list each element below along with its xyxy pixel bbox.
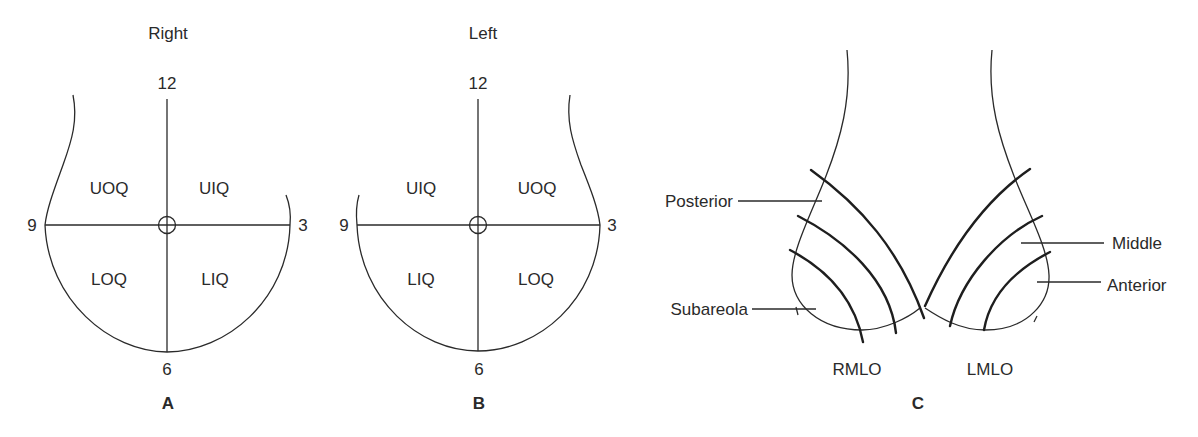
panel-c-label-middle: Middle — [1112, 234, 1162, 253]
panel-a-quadrant-uoq: UOQ — [90, 179, 129, 198]
panel-c-label-lmlo: LMLO — [967, 360, 1013, 379]
panel-c-lmlo-posterior-line — [925, 169, 1030, 306]
panel-c-label-posterior: Posterior — [665, 192, 733, 211]
panel-a-breast-outline-right — [286, 195, 290, 225]
panel-c-anterior-tick — [1034, 316, 1037, 322]
panel-a-clock-6: 6 — [162, 360, 171, 379]
panel-c-rmlo-outline — [792, 50, 920, 330]
panel-b-quadrant-liq: LIQ — [407, 270, 434, 289]
panel-c-lmlo-middle-line — [950, 216, 1042, 326]
panel-c-lmlo-anterior-line — [984, 252, 1050, 330]
panel-b-clock-6: 6 — [474, 360, 483, 379]
panel-c-letter: C — [912, 394, 924, 413]
panel-b-breast-outline-left — [356, 195, 359, 225]
panel-c-lmlo-outline — [925, 50, 1049, 330]
panel-a-quadrant-uiq: UIQ — [199, 179, 229, 198]
panel-c-label-subareola: Subareola — [670, 300, 748, 319]
panel-a-title: Right — [148, 24, 188, 43]
panel-a-letter: A — [162, 394, 174, 413]
panel-c-label-anterior: Anterior — [1107, 276, 1167, 295]
panel-c-mlo-depth: Posterior Subareola Middle Anterior RMLO… — [665, 50, 1167, 413]
panel-c-label-rmlo: RMLO — [832, 360, 881, 379]
panel-a-clock-9: 9 — [27, 216, 36, 235]
panel-a-quadrant-liq: LIQ — [201, 270, 228, 289]
panel-b-clock-3: 3 — [607, 216, 616, 235]
panel-b-clock-12: 12 — [469, 74, 488, 93]
panel-c-rmlo-posterior-line — [811, 170, 924, 318]
panel-c-rmlo-anterior-line — [790, 250, 863, 342]
panel-a-clock-3: 3 — [298, 216, 307, 235]
panel-c-subareola-tick — [796, 307, 798, 315]
panel-b-clock-9: 9 — [339, 216, 348, 235]
panel-b-letter: B — [473, 394, 485, 413]
panel-b-quadrant-uiq: UIQ — [406, 179, 436, 198]
panel-b-title: Left — [469, 24, 498, 43]
panel-a-quadrant-loq: LOQ — [91, 270, 127, 289]
panel-b-quadrant-loq: LOQ — [518, 270, 554, 289]
panel-b-quadrant-uoq: UOQ — [518, 179, 557, 198]
panel-b-left-breast: Left 12 9 3 6 UIQ UOQ LIQ LOQ B — [339, 24, 616, 413]
panel-a-right-breast: Right 12 9 3 6 UOQ UIQ LOQ LIQ A — [27, 24, 307, 413]
panel-b-breast-outline-right — [569, 95, 600, 225]
breast-quadrant-diagram: Right 12 9 3 6 UOQ UIQ LOQ LIQ A Left 12… — [0, 0, 1198, 437]
panel-a-breast-outline-left — [45, 95, 75, 225]
panel-a-clock-12: 12 — [158, 74, 177, 93]
